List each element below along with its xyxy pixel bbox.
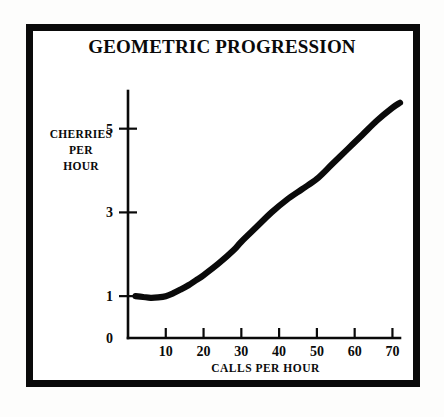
x-axis-ticks bbox=[166, 328, 393, 338]
chart-plot-area: 0135 10203040506070 bbox=[26, 24, 420, 387]
x-tick-label: 70 bbox=[385, 344, 399, 359]
y-tick-label: 3 bbox=[106, 205, 113, 220]
y-axis-tick-labels: 0135 bbox=[106, 122, 113, 346]
x-tick-label: 10 bbox=[159, 344, 173, 359]
y-tick-label: 0 bbox=[106, 331, 113, 346]
chart-page: GEOMETRIC PROGRESSION CHERRIES PER HOUR … bbox=[0, 0, 444, 417]
x-tick-label: 60 bbox=[348, 344, 362, 359]
x-tick-label: 30 bbox=[234, 344, 248, 359]
x-tick-label: 50 bbox=[310, 344, 324, 359]
x-tick-label: 20 bbox=[197, 344, 211, 359]
x-tick-label: 40 bbox=[272, 344, 286, 359]
x-axis-tick-labels: 10203040506070 bbox=[159, 344, 400, 359]
y-tick-label: 5 bbox=[106, 122, 113, 137]
data-series-curve bbox=[136, 103, 400, 298]
y-tick-label: 1 bbox=[106, 289, 113, 304]
